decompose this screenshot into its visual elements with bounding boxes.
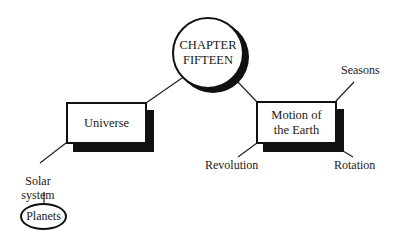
node-motion-label-line1: Motion of xyxy=(271,108,321,123)
central-node-line1: CHAPTER xyxy=(180,38,237,53)
node-solar-system: Solar system xyxy=(17,174,59,202)
node-solar-line1: Solar xyxy=(17,174,59,188)
node-universe-label: Universe xyxy=(84,116,129,131)
central-node-line2: FIFTEEN xyxy=(180,53,237,68)
node-motion-of-the-earth: Motion of the Earth xyxy=(256,101,337,144)
node-planets: Planets xyxy=(20,203,67,230)
central-node-chapter-fifteen: CHAPTER FIFTEEN xyxy=(172,17,244,89)
node-revolution: Revolution xyxy=(205,158,258,172)
node-universe: Universe xyxy=(66,102,147,144)
node-seasons: Seasons xyxy=(341,63,380,77)
connector-universe-solar xyxy=(40,143,66,163)
node-solar-line2: system xyxy=(17,188,59,202)
connector-chapter-universe xyxy=(146,78,182,103)
node-rotation: Rotation xyxy=(334,158,375,172)
connector-chapter-motion xyxy=(236,80,257,102)
connector-motion-rotation xyxy=(343,151,353,157)
connector-motion-seasons xyxy=(336,82,354,101)
node-planets-label: Planets xyxy=(26,209,61,224)
connector-motion-revolution xyxy=(238,143,257,157)
node-motion-label-line2: the Earth xyxy=(271,123,321,138)
